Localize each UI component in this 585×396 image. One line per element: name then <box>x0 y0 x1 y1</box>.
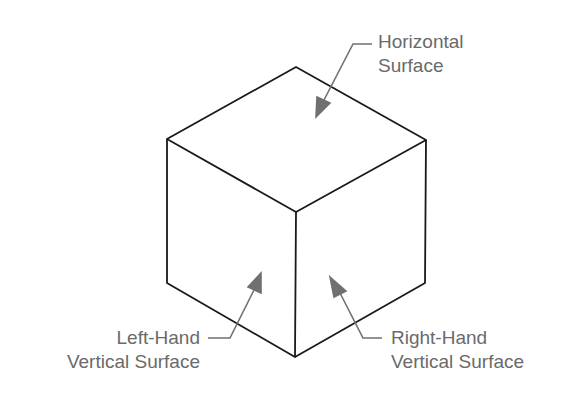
label-top-line2: Surface <box>378 54 464 78</box>
leader-top <box>316 44 372 117</box>
cube-left-face <box>167 139 296 357</box>
leader-left <box>208 273 261 338</box>
cube-right-face <box>295 140 426 357</box>
label-right-hand-vertical-surface: Right-Hand Vertical Surface <box>391 326 524 374</box>
label-left-line2: Vertical Surface <box>67 350 200 374</box>
leader-right <box>330 277 382 338</box>
arrowhead-top <box>316 97 330 117</box>
label-left-hand-vertical-surface: Left-Hand Vertical Surface <box>67 326 200 374</box>
label-right-line2: Vertical Surface <box>391 350 524 374</box>
label-top-line1: Horizontal <box>378 30 464 54</box>
cube-top-face <box>167 67 426 212</box>
label-left-line1: Left-Hand <box>67 326 200 350</box>
label-horizontal-surface: Horizontal Surface <box>378 30 464 78</box>
arrowhead-right <box>330 277 346 297</box>
arrowhead-left <box>248 273 261 293</box>
cube <box>167 67 426 357</box>
label-right-line1: Right-Hand <box>391 326 524 350</box>
